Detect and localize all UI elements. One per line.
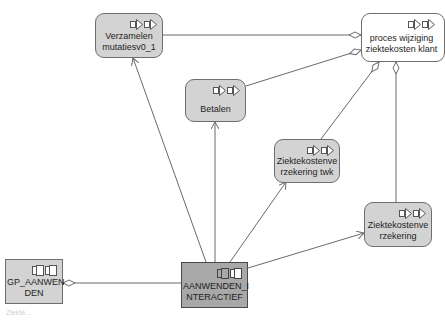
- node-label: proces wijziging ziektekosten klant: [362, 33, 444, 55]
- node-proces-wijziging[interactable]: proces wijziging ziektekosten klant: [361, 13, 445, 62]
- component-icon: [217, 268, 243, 279]
- node-betalen[interactable]: Betalen: [185, 79, 246, 122]
- process-step-icon: [213, 85, 241, 96]
- process-step-icon: [130, 19, 158, 30]
- process-step-icon: [399, 208, 427, 219]
- process-step-icon: [408, 19, 436, 30]
- edge-betalen-proces[interactable]: [246, 50, 361, 86]
- node-verzamelen-mutaties[interactable]: Verzamelen mutatiesv0_1: [95, 13, 163, 58]
- node-gp-aanwenden[interactable]: GP_AANWEN DEN: [5, 259, 63, 304]
- edge-interactief-zkv[interactable]: [248, 233, 364, 268]
- node-label: AANWENDEN_I NTERACTIEF: [182, 281, 247, 303]
- node-label: Verzamelen mutatiesv0_1: [96, 31, 162, 53]
- edge-interactief-zkv-twk[interactable]: [230, 182, 286, 262]
- node-ziektekostenverzekering-twk[interactable]: Ziektekostenve rzekering twk: [274, 139, 340, 183]
- component-icon: [32, 265, 58, 276]
- node-aanwenden-interactief[interactable]: AANWENDEN_I NTERACTIEF: [181, 262, 248, 308]
- edge-zkv-twk-proces[interactable]: [321, 62, 379, 139]
- node-label: Ziektekostenve rzekering: [365, 220, 431, 242]
- node-label: GP_AANWEN DEN: [6, 277, 62, 299]
- footer-text: Ziekte...: [6, 309, 31, 316]
- node-label: Betalen: [186, 104, 245, 115]
- process-step-icon: [307, 145, 335, 156]
- node-label: Ziektekostenve rzekering twk: [275, 156, 339, 178]
- node-ziektekostenverzekering[interactable]: Ziektekostenve rzekering: [364, 202, 432, 247]
